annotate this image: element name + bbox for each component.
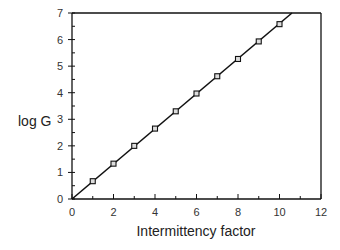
- data-point-marker: [173, 109, 178, 114]
- data-point-marker: [256, 39, 261, 44]
- chart: 02468101201234567 log G Intermittency fa…: [0, 0, 340, 250]
- data-point-marker: [153, 126, 158, 131]
- y-axis-label: log G: [18, 113, 51, 129]
- x-tick-label: 4: [152, 206, 158, 218]
- plot-frame: [72, 13, 321, 199]
- x-axis-label: Intermittency factor: [136, 223, 255, 239]
- data-point-marker: [236, 56, 241, 61]
- data-point-marker: [90, 179, 95, 184]
- x-tick-label: 8: [235, 206, 241, 218]
- y-tick-label: 2: [57, 140, 63, 152]
- x-tick-label: 12: [315, 206, 327, 218]
- data-point-marker: [194, 91, 199, 96]
- y-tick-label: 3: [57, 113, 63, 125]
- data-series: [72, 13, 292, 199]
- x-tick-label: 6: [193, 206, 199, 218]
- y-tick-label: 5: [57, 60, 63, 72]
- data-point-marker: [111, 161, 116, 166]
- y-tick-label: 1: [57, 166, 63, 178]
- y-tick-label: 4: [57, 87, 63, 99]
- data-point-marker: [215, 74, 220, 79]
- y-tick-label: 7: [57, 7, 63, 19]
- x-tick-label: 2: [110, 206, 116, 218]
- tick-labels: 02468101201234567: [57, 7, 327, 218]
- x-tick-label: 10: [273, 206, 285, 218]
- data-point-marker: [277, 22, 282, 27]
- y-tick-label: 0: [57, 193, 63, 205]
- x-tick-label: 0: [69, 206, 75, 218]
- y-tick-label: 6: [57, 34, 63, 46]
- data-point-marker: [132, 143, 137, 148]
